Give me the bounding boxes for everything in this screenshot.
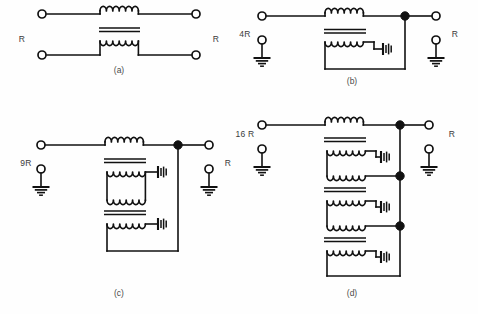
panel-c-secondary-coil-1 — [107, 172, 145, 177]
panel-d: 16 R R (d) — [236, 117, 456, 298]
panel-b-cell-symbol — [383, 43, 391, 55]
panel-d-primary-coil — [325, 117, 363, 122]
panel-b-terminal-ground-left[interactable] — [258, 36, 266, 44]
panel-d-terminal-ground-left[interactable] — [258, 145, 266, 153]
panel-b-terminal-ground-right[interactable] — [432, 36, 440, 44]
panel-d-terminal-output[interactable] — [425, 121, 433, 129]
panel-b-ground-right — [428, 58, 445, 66]
panel-d-primary-coil-3 — [327, 226, 365, 231]
panel-c-secondary-coil-2 — [107, 224, 145, 229]
panel-b-left-label: 4R — [239, 29, 250, 39]
panel-d-terminal-ground-right[interactable] — [425, 145, 433, 153]
panel-c-primary-coil — [105, 137, 143, 142]
panel-c-ground-left — [33, 187, 50, 195]
panel-a-terminal-bottom-left[interactable] — [38, 51, 46, 59]
panel-d-cell-symbol-2 — [381, 201, 389, 213]
panel-c-cell-symbol-2 — [158, 218, 166, 230]
panel-c: 9R R (c) — [20, 137, 231, 298]
panel-b: 4R R (b) — [239, 8, 458, 86]
panel-a-top-left-lead — [47, 14, 100, 15]
panel-b-ground-left — [254, 58, 271, 66]
panel-b-primary-coil — [325, 8, 363, 13]
panel-b-junction-dot — [401, 12, 409, 20]
panel-a-left-label: R — [19, 34, 25, 44]
panel-d-secondary-coil-1 — [327, 151, 365, 156]
panel-d-ground-left — [254, 167, 271, 175]
panel-a-right-label: R — [213, 34, 219, 44]
panel-d-cell-symbol-3 — [381, 251, 389, 263]
panel-c-caption: (c) — [114, 288, 124, 298]
panel-d-ground-right — [421, 167, 438, 175]
panel-c-terminal-output[interactable] — [205, 141, 213, 149]
panel-a-caption: (a) — [114, 65, 125, 75]
panel-d-junction-dot-1 — [396, 121, 404, 129]
panel-a-terminal-bottom-right[interactable] — [192, 51, 200, 59]
figure-root: R R (a) — [0, 0, 478, 314]
panel-a-primary-coil — [100, 6, 138, 11]
panel-c-ground-right — [201, 187, 218, 195]
panel-c-primary-coil-2 — [107, 200, 145, 205]
panel-a-secondary-coil — [100, 41, 138, 46]
panel-b-terminal-output[interactable] — [432, 12, 440, 20]
transformer-diagram-figure: R R (a) — [0, 0, 478, 314]
panel-d-left-label: 16 R — [236, 129, 255, 139]
panel-a: R R (a) — [19, 6, 219, 75]
panel-c-terminal-ground-left[interactable] — [37, 165, 45, 173]
panel-d-caption: (d) — [347, 288, 358, 298]
panel-b-caption: (b) — [347, 76, 358, 86]
panel-c-cell-symbol-1 — [158, 166, 166, 178]
panel-a-terminal-top-right[interactable] — [192, 10, 200, 18]
panel-d-junction-dot-3 — [396, 222, 404, 230]
panel-a-terminal-top-left[interactable] — [38, 10, 46, 18]
panel-c-left-label: 9R — [20, 158, 31, 168]
panel-d-cell-symbol-1 — [381, 151, 389, 163]
panel-d-junction-dot-2 — [396, 172, 404, 180]
panel-d-secondary-coil-2 — [327, 201, 365, 206]
panel-c-terminal-ground-right[interactable] — [205, 165, 213, 173]
panel-c-right-label: R — [225, 158, 231, 168]
panel-d-right-label: R — [449, 129, 455, 139]
panel-c-junction-dot — [174, 141, 182, 149]
panel-b-terminal-input[interactable] — [258, 12, 266, 20]
panel-b-right-label: R — [452, 29, 458, 39]
panel-d-secondary-coil-3 — [327, 251, 365, 256]
panel-d-primary-coil-2 — [327, 176, 365, 181]
panel-d-terminal-input[interactable] — [258, 121, 266, 129]
panel-c-terminal-input[interactable] — [37, 141, 45, 149]
panel-b-secondary-coil — [325, 42, 363, 47]
